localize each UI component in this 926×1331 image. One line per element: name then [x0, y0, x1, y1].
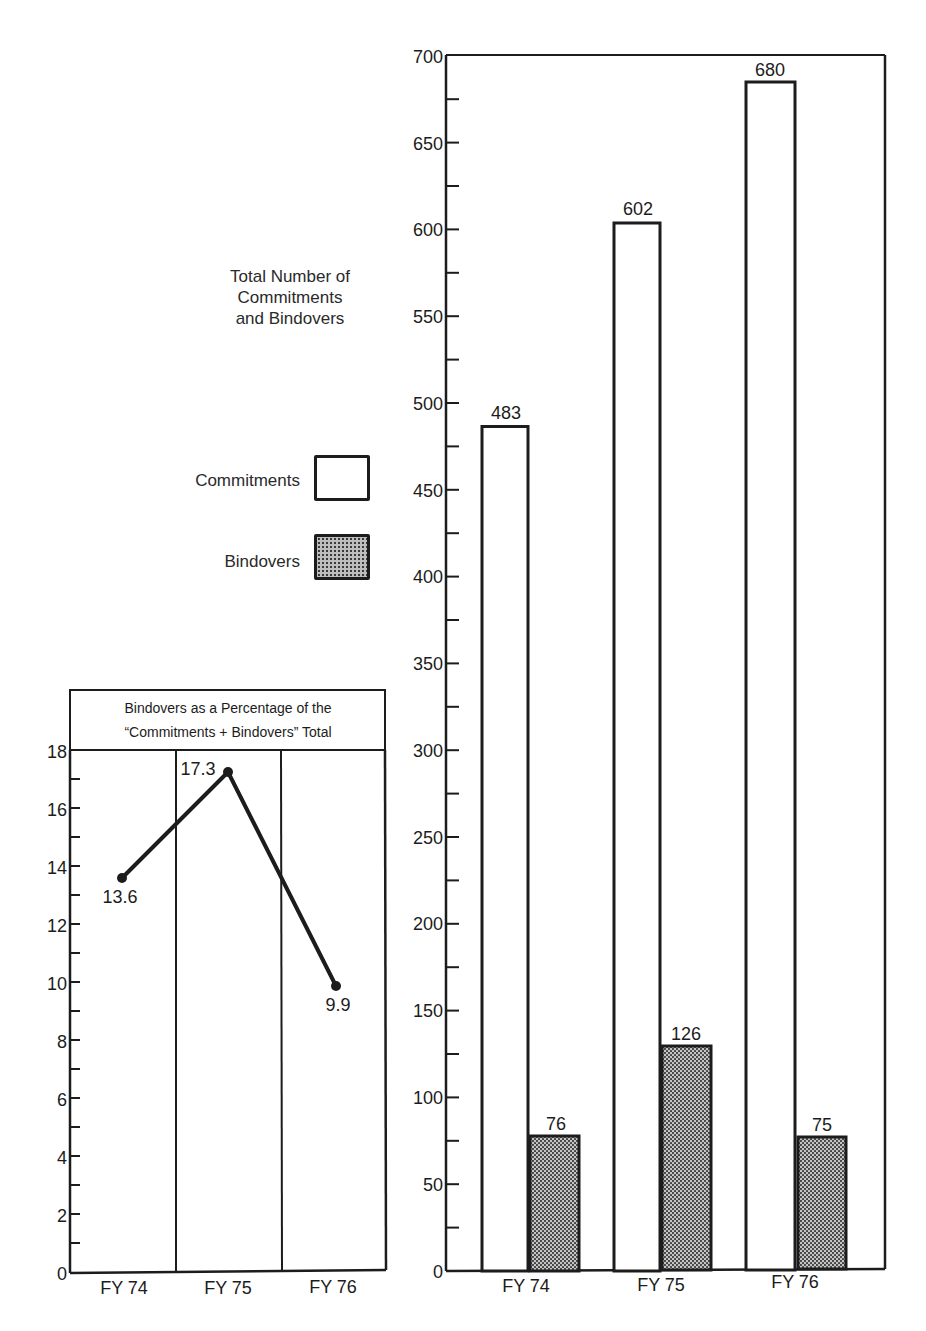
bar-commitments-fy76	[746, 82, 795, 1270]
y-tick-label: 600	[413, 220, 443, 240]
point-label-fy74: 13.6	[102, 887, 137, 907]
y-tick-label: 700	[413, 47, 443, 67]
inset-title-line: “Commitments + Bindovers” Total	[124, 724, 331, 740]
y-tick-label: 50	[423, 1175, 443, 1195]
y-tick-label: 200	[413, 914, 443, 934]
y-tick-label: 300	[413, 741, 443, 761]
y-tick-label: 12	[47, 916, 67, 936]
y-tick-label: 0	[57, 1264, 67, 1284]
y-tick-label: 14	[47, 858, 67, 878]
bar-bindovers-fy74	[530, 1136, 579, 1271]
y-tick-label: 6	[57, 1090, 67, 1110]
bar-commitments-fy74	[482, 427, 528, 1272]
x-label: FY 76	[771, 1272, 819, 1292]
inset-point-labels: 13.6 17.3 9.9	[102, 759, 350, 1015]
column-divider	[281, 750, 282, 1271]
y-tick-label: 16	[47, 800, 67, 820]
inset-x-labels: FY 74 FY 75 FY 76	[100, 1277, 357, 1298]
y-tick-label: 18	[47, 742, 67, 762]
y-tick-label: 500	[413, 394, 443, 414]
inset-y-tick-labels: 0 2 4 6 8 10 12 14 16 18	[47, 742, 67, 1284]
bar-commitments-fy75	[614, 223, 660, 1271]
y-tick-label: 100	[413, 1088, 443, 1108]
inset-title-line: Bindovers as a Percentage of the	[124, 700, 331, 716]
bar-chart-y-tick-labels: 0 50 100 150 200 250 300 350 400 450 500…	[413, 47, 443, 1282]
x-label: FY 75	[637, 1275, 685, 1295]
y-tick-label: 150	[413, 1001, 443, 1021]
bar-chart-x-labels: FY 74 FY 75 FY 76	[502, 1272, 819, 1296]
point-label-fy76: 9.9	[325, 995, 350, 1015]
value-label-bindovers-fy74: 76	[546, 1114, 566, 1134]
x-label: FY 76	[309, 1277, 357, 1297]
y-tick-label: 250	[413, 828, 443, 848]
value-label-bindovers-fy76: 75	[812, 1115, 832, 1135]
y-tick-label: 350	[413, 654, 443, 674]
main-bar-chart: 0 50 100 150 200 250 300 350 400 450 500…	[0, 0, 926, 1331]
commitments-bars	[482, 82, 795, 1271]
data-point-fy74	[117, 873, 127, 883]
bindovers-bars	[530, 1046, 846, 1271]
y-tick-label: 8	[57, 1032, 67, 1052]
y-tick-label: 550	[413, 307, 443, 327]
data-point-fy75	[223, 767, 233, 777]
value-label-commitments-fy75: 602	[623, 199, 653, 219]
bar-chart-y-axis	[446, 99, 459, 1271]
bar-bindovers-fy76	[798, 1137, 846, 1269]
y-tick-label: 2	[57, 1206, 67, 1226]
y-tick-label: 400	[413, 567, 443, 587]
inset-line-chart: Bindovers as a Percentage of the “Commit…	[47, 690, 386, 1298]
value-label-bindovers-fy75: 126	[671, 1024, 701, 1044]
value-label-commitments-fy76: 680	[755, 60, 785, 80]
y-tick-label: 4	[57, 1148, 67, 1168]
value-label-commitments-fy74: 483	[491, 403, 521, 423]
data-point-fy76	[331, 981, 341, 991]
y-tick-label: 10	[47, 974, 67, 994]
bindover-percentage-line	[122, 772, 336, 986]
point-label-fy75: 17.3	[180, 759, 215, 779]
inset-y-axis	[70, 779, 80, 1243]
inset-title-box	[70, 690, 385, 750]
x-label: FY 74	[100, 1278, 148, 1298]
y-tick-label: 450	[413, 481, 443, 501]
y-tick-label: 650	[413, 134, 443, 154]
x-label: FY 75	[204, 1278, 252, 1298]
x-label: FY 74	[502, 1276, 550, 1296]
bar-bindovers-fy75	[662, 1046, 711, 1270]
y-tick-label: 0	[433, 1262, 443, 1282]
